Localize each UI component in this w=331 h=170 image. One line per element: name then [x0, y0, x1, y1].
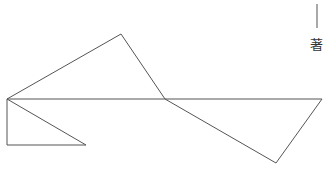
marker-label: 著: [310, 38, 323, 51]
segment-middle-to-bottom-right: [165, 99, 276, 163]
segment-left-diagonal: [7, 99, 86, 145]
segment-bottom-right-to-right: [276, 99, 322, 163]
segment-peak-to-middle: [121, 34, 165, 99]
segment-left-to-peak: [7, 34, 121, 99]
line-diagram: [0, 0, 331, 170]
